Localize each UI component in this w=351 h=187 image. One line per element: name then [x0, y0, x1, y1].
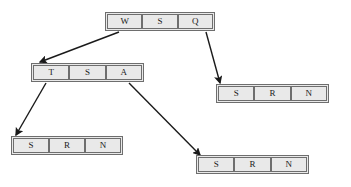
array-cell[interactable]: N — [271, 157, 307, 172]
right-leaf-array-node: SRN — [216, 84, 329, 103]
array-cell[interactable]: W — [107, 14, 142, 29]
arrow-left-child-t-to-bottom-left-leaf — [16, 83, 46, 135]
array-cell[interactable]: A — [106, 65, 142, 80]
array-cell[interactable]: Q — [178, 14, 213, 29]
array-cell[interactable]: S — [69, 65, 105, 80]
bottom-left-leaf-array-node: SRN — [11, 136, 123, 155]
array-cell[interactable]: R — [49, 138, 85, 153]
array-cell[interactable]: S — [142, 14, 177, 29]
arrow-root-w-to-left-child — [40, 32, 119, 62]
array-cell[interactable]: N — [291, 86, 327, 101]
array-cell[interactable]: S — [13, 138, 49, 153]
arrow-left-child-a-to-bottom-right-leaf — [129, 83, 200, 155]
arrow-root-q-to-right-leaf — [206, 32, 220, 83]
array-cell[interactable]: S — [218, 86, 254, 101]
left-child-array-node: TSA — [31, 63, 144, 82]
diagram-canvas: WSQTSASRNSRNSRN — [0, 0, 351, 187]
array-cell[interactable]: N — [85, 138, 121, 153]
bottom-right-leaf-array-node: SRN — [196, 155, 309, 174]
array-cell[interactable]: T — [33, 65, 69, 80]
array-cell[interactable]: R — [234, 157, 270, 172]
root-array-node: WSQ — [105, 12, 215, 31]
array-cell[interactable]: R — [254, 86, 290, 101]
array-cell[interactable]: S — [198, 157, 234, 172]
